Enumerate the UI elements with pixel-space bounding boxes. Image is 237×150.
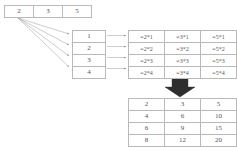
- table-row: 1: [73, 31, 106, 43]
- formula-cell-1-0[interactable]: =2*2: [129, 43, 165, 55]
- fan-out-arrows: [18, 18, 69, 67]
- big-down-arrow: [165, 78, 195, 97]
- table-row: =2*2 =3*2 =5*2: [129, 43, 237, 55]
- table-row: =2*1 =3*1 =5*1: [129, 31, 237, 43]
- source-row-table: 2 3 5: [4, 5, 92, 18]
- row-arrows: [107, 36, 126, 69]
- formula-cell-3-2[interactable]: =5*4: [201, 67, 237, 79]
- formula-cell-0-0[interactable]: =2*1: [129, 31, 165, 43]
- result-cell-0-2[interactable]: 5: [201, 99, 237, 111]
- formula-cell-0-1[interactable]: =3*1: [165, 31, 201, 43]
- formula-cell-3-0[interactable]: =2*4: [129, 67, 165, 79]
- multiplier-cell-2[interactable]: 3: [73, 55, 106, 67]
- formula-cell-0-2[interactable]: =5*1: [201, 31, 237, 43]
- result-table: 2 3 5 4 6 10 6 9 15 8 12 20: [128, 98, 237, 147]
- table-row: 4: [73, 67, 106, 79]
- result-cell-2-2[interactable]: 15: [201, 123, 237, 135]
- formula-cell-1-1[interactable]: =3*2: [165, 43, 201, 55]
- formula-cell-3-1[interactable]: =3*4: [165, 67, 201, 79]
- result-cell-2-1[interactable]: 9: [165, 123, 201, 135]
- result-cell-1-1[interactable]: 6: [165, 111, 201, 123]
- result-cell-1-2[interactable]: 10: [201, 111, 237, 123]
- table-row: 4 6 10: [129, 111, 237, 123]
- table-row: 2 3 5: [5, 6, 92, 18]
- multiplier-cell-1[interactable]: 2: [73, 43, 106, 55]
- table-row: 2 3 5: [129, 99, 237, 111]
- result-cell-0-1[interactable]: 3: [165, 99, 201, 111]
- result-cell-0-0[interactable]: 2: [129, 99, 165, 111]
- source-cell-2[interactable]: 5: [63, 6, 92, 18]
- formula-cell-2-0[interactable]: =2*3: [129, 55, 165, 67]
- multiplier-cell-0[interactable]: 1: [73, 31, 106, 43]
- formula-cell-2-2[interactable]: =5*3: [201, 55, 237, 67]
- multiplier-cell-3[interactable]: 4: [73, 67, 106, 79]
- result-cell-3-2[interactable]: 20: [201, 135, 237, 147]
- result-cell-3-1[interactable]: 12: [165, 135, 201, 147]
- result-cell-1-0[interactable]: 4: [129, 111, 165, 123]
- formula-table: =2*1 =3*1 =5*1 =2*2 =3*2 =5*2 =2*3 =3*3 …: [128, 30, 237, 79]
- source-cell-1[interactable]: 3: [34, 6, 63, 18]
- multiplier-column-table: 1 2 3 4: [72, 30, 106, 79]
- source-cell-0[interactable]: 2: [5, 6, 34, 18]
- formula-cell-2-1[interactable]: =3*3: [165, 55, 201, 67]
- result-cell-2-0[interactable]: 6: [129, 123, 165, 135]
- table-row: 6 9 15: [129, 123, 237, 135]
- table-row: 2: [73, 43, 106, 55]
- table-row: 3: [73, 55, 106, 67]
- diagram-canvas: 2 3 5 1 2 3 4 =2*1 =3*1 =5*1 =2*2 =3*2 =…: [0, 0, 237, 150]
- result-cell-3-0[interactable]: 8: [129, 135, 165, 147]
- table-row: =2*4 =3*4 =5*4: [129, 67, 237, 79]
- table-row: 8 12 20: [129, 135, 237, 147]
- formula-cell-1-2[interactable]: =5*2: [201, 43, 237, 55]
- table-row: =2*3 =3*3 =5*3: [129, 55, 237, 67]
